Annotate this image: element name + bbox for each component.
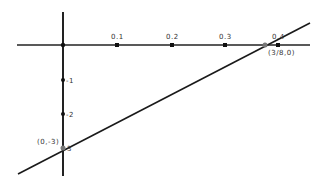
x-tick-label-0.4: 0.4: [272, 33, 285, 41]
x-intercept-point: [263, 43, 268, 48]
y-intercept-label: (0,-3): [37, 138, 59, 146]
x-tick-0.4: [276, 43, 280, 47]
x-tick-label-0.1: 0.1: [111, 33, 124, 41]
y-intercept-point: [61, 146, 66, 151]
y-tick--1: [61, 78, 65, 82]
y-tick--2: [61, 112, 65, 116]
x-intercept-label: (3/8,0): [268, 49, 295, 57]
y-tick-label--2: -2: [66, 111, 74, 119]
x-tick-0.3: [223, 43, 227, 47]
x-tick-0.2: [170, 43, 174, 47]
origin-dot: [61, 43, 65, 47]
y-tick-label--3: 3: [67, 145, 72, 153]
x-tick-label-0.2: 0.2: [166, 33, 179, 41]
y-tick-label--1: -1: [66, 77, 74, 85]
line-graph: 0.1 0.2 0.3 0.4 -1 -2 3 (0,-3) (3/8,0): [0, 0, 328, 187]
x-tick-0.1: [115, 43, 119, 47]
x-tick-label-0.3: 0.3: [219, 33, 232, 41]
